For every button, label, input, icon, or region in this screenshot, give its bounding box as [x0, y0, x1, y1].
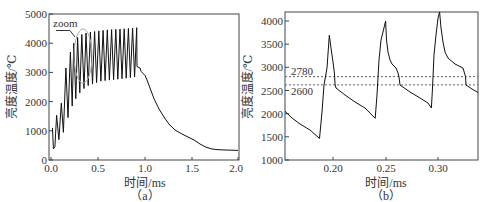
reference-label-2600: 2600 [291, 85, 314, 97]
panel-a-x-tick-labels: 0.0 0.5 1.0 1.5 2.0 [44, 162, 243, 174]
panel-a-chart: 0 1000 2000 3000 4000 5000 0.0 0.5 1.0 1… [4, 8, 243, 202]
x-tick-label: 1.5 [185, 162, 199, 174]
y-tick-label: 4000 [25, 37, 48, 49]
panel-a-zoom-label: zoom [53, 17, 78, 29]
panel-a-y-ticks [49, 14, 53, 160]
y-tick-label: 1500 [261, 131, 284, 143]
panel-b-y-axis-label: 亮度温度/℃ [240, 55, 255, 120]
y-tick-label: 3500 [261, 38, 284, 50]
y-tick-label: 2000 [25, 96, 48, 108]
panel-a-y-tick-labels: 0 1000 2000 3000 4000 5000 [25, 8, 48, 166]
y-tick-label: 1000 [25, 125, 48, 137]
x-tick-label: 1.0 [138, 162, 152, 174]
x-tick-label: 0.25 [376, 162, 396, 174]
panel-b-plot-frame [285, 12, 478, 160]
panel-b-y-ticks [285, 21, 289, 160]
y-tick-label: 1000 [261, 154, 284, 166]
x-tick-label: 2.0 [229, 162, 243, 174]
y-tick-label: 5000 [25, 8, 48, 20]
panel-b-x-axis-label: 时间/ms [365, 176, 407, 190]
y-tick-label: 2500 [261, 85, 284, 97]
x-tick-label: 0.5 [91, 162, 105, 174]
x-tick-label: 0.0 [44, 162, 58, 174]
panel-a-y-axis-label: 亮度温度/℃ [4, 55, 19, 120]
panel-a-data-line [53, 28, 239, 151]
y-tick-label: 2000 [261, 108, 284, 120]
y-tick-label: 3000 [25, 66, 48, 78]
x-tick-label: 0.20 [323, 162, 343, 174]
panel-b-y-tick-labels: 1000 1500 2000 2500 3000 3500 4000 [261, 15, 284, 166]
y-tick-label: 4000 [261, 15, 284, 27]
panel-b-caption: （b） [371, 189, 401, 202]
panel-a-zoom-leader [70, 31, 75, 38]
y-tick-label: 3000 [261, 61, 284, 73]
x-tick-label: 0.30 [428, 162, 448, 174]
panel-a-x-axis-label: 时间/ms [124, 176, 166, 190]
figure: 0 1000 2000 3000 4000 5000 0.0 0.5 1.0 1… [0, 0, 483, 202]
panel-a-caption: （a） [130, 189, 159, 202]
reference-label-2780: 2780 [291, 65, 314, 77]
panel-b-data-line [285, 12, 478, 139]
panel-b-x-tick-labels: 0.20 0.25 0.30 [323, 162, 448, 174]
panel-b-chart: 1000 1500 2000 2500 3000 3500 4000 0.20 … [240, 12, 478, 202]
